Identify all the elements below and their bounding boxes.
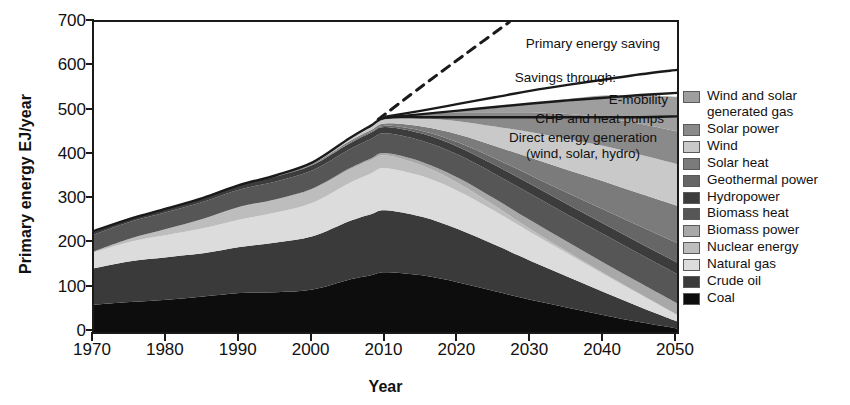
legend-swatch-icon: [683, 208, 700, 220]
legend-label: Biomass heat: [707, 205, 789, 221]
legend-label: Biomass power: [707, 222, 799, 238]
legend-swatch-icon: [683, 175, 700, 187]
y-tick-mark: [86, 196, 94, 198]
y-tick-mark: [86, 108, 94, 110]
legend-label: Geothermal power: [707, 172, 818, 188]
legend-item: Hydropower: [683, 189, 850, 205]
y-tick-300: 300: [36, 189, 86, 206]
x-tick-1980: 1980: [146, 340, 184, 360]
x-tick-2050: 2050: [656, 340, 694, 360]
legend-label: Coal: [707, 290, 735, 306]
x-tick-mark: [528, 332, 530, 341]
x-tick-mark: [164, 332, 166, 341]
legend: Wind and solar generated gasSolar powerW…: [683, 88, 850, 307]
legend-swatch-icon: [683, 259, 700, 271]
y-tick-mark: [86, 329, 94, 331]
x-tick-1990: 1990: [219, 340, 257, 360]
y-tick-400: 400: [36, 144, 86, 161]
y-axis-title: Primary energy EJ/year: [17, 34, 35, 334]
legend-label: Solar power: [707, 121, 779, 137]
legend-label: Wind: [707, 138, 738, 154]
legend-label: Crude oil: [707, 273, 761, 289]
legend-item: Geothermal power: [683, 172, 850, 188]
legend-swatch-icon: [683, 192, 700, 204]
legend-item: Biomass power: [683, 222, 850, 238]
x-tick-mark: [237, 332, 239, 341]
x-axis-title: Year: [88, 378, 683, 396]
x-tick-2010: 2010: [365, 340, 403, 360]
y-tick-100: 100: [36, 277, 86, 294]
y-tick-mark: [86, 240, 94, 242]
legend-swatch-icon: [683, 225, 700, 237]
legend-label: Nuclear energy: [707, 239, 799, 255]
legend-label: Wind and solar generated gas: [707, 88, 850, 120]
x-tick-mark: [91, 332, 93, 341]
annotation-chp-heat-pumps: CHP and heat pumps: [535, 111, 664, 126]
legend-item: Biomass heat: [683, 205, 850, 221]
plot-area: [92, 20, 679, 334]
x-tick-2000: 2000: [292, 340, 330, 360]
y-tick-200: 200: [36, 233, 86, 250]
x-tick-2020: 2020: [437, 340, 475, 360]
y-tick-mark: [86, 285, 94, 287]
x-tick-1970: 1970: [73, 340, 111, 360]
legend-item: Crude oil: [683, 273, 850, 289]
x-tick-mark: [455, 332, 457, 341]
annotation-primary-energy-saving: Primary energy saving: [526, 36, 660, 51]
x-tick-mark: [310, 332, 312, 341]
legend-label: Hydropower: [707, 189, 780, 205]
x-tick-2040: 2040: [583, 340, 621, 360]
legend-item: Solar power: [683, 121, 850, 137]
x-tick-mark: [383, 332, 385, 341]
legend-swatch-icon: [683, 141, 700, 153]
chart-page: Primary energy EJ/year Year 010020030040…: [0, 0, 850, 405]
legend-item: Natural gas: [683, 256, 850, 272]
y-tick-500: 500: [36, 100, 86, 117]
y-tick-0: 0: [36, 322, 86, 339]
x-tick-mark: [601, 332, 603, 341]
annotation-e-mobility: E-mobility: [609, 92, 668, 107]
x-tick-2030: 2030: [510, 340, 548, 360]
annotation-direct-generation-line1: Direct energy generation: [509, 130, 657, 145]
legend-swatch-icon: [683, 91, 700, 103]
annotation-savings-through: Savings through:: [515, 70, 616, 85]
legend-item: Solar heat: [683, 155, 850, 171]
legend-swatch-icon: [683, 124, 700, 136]
y-tick-700: 700: [36, 12, 86, 29]
legend-label: Natural gas: [707, 256, 776, 272]
legend-item: Coal: [683, 290, 850, 306]
y-tick-600: 600: [36, 56, 86, 73]
legend-swatch-icon: [683, 242, 700, 254]
legend-item: Wind and solar generated gas: [683, 88, 850, 120]
y-tick-mark: [86, 152, 94, 154]
legend-item: Wind: [683, 138, 850, 154]
legend-swatch-icon: [683, 158, 700, 170]
legend-swatch-icon: [683, 293, 700, 305]
y-tick-mark: [86, 19, 94, 21]
line-business-as-usual-projection: [378, 22, 509, 119]
y-tick-mark: [86, 63, 94, 65]
legend-label: Solar heat: [707, 155, 769, 171]
legend-item: Nuclear energy: [683, 239, 850, 255]
annotation-direct-generation-line2: (wind, solar, hydro): [526, 146, 640, 161]
legend-swatch-icon: [683, 276, 700, 288]
x-tick-mark: [674, 332, 676, 341]
stacked-area-svg: [94, 22, 677, 332]
